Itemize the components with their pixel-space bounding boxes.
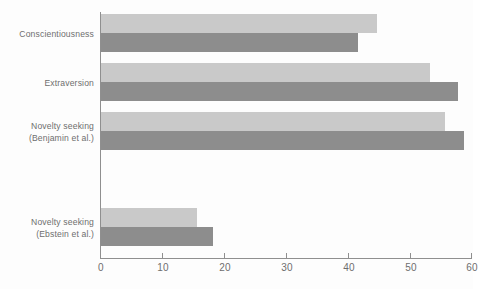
- bar-conscientiousness-light: [101, 14, 377, 33]
- x-tick-50: [410, 253, 411, 258]
- x-tick-label-50: 50: [396, 262, 426, 273]
- bar-extraversion-dark: [101, 82, 458, 101]
- x-tick-label-40: 40: [334, 262, 364, 273]
- plot-area: [101, 12, 473, 258]
- category-label-novelty-ebstein: Novelty seeking (Ebstein et al.): [0, 217, 94, 240]
- category-label-novelty-benjamin: Novelty seeking (Benjamin et al.): [0, 121, 94, 144]
- category-label-line1: Novelty seeking: [0, 121, 94, 133]
- x-tick-label-10: 10: [148, 262, 178, 273]
- category-label-line1: Conscientiousness: [0, 29, 94, 41]
- x-tick-label-30: 30: [272, 262, 302, 273]
- category-labels: Conscientiousness Extraversion Novelty s…: [0, 0, 94, 289]
- x-tick-label-20: 20: [210, 262, 240, 273]
- bar-extraversion-light: [101, 63, 430, 82]
- x-tick-10: [162, 253, 163, 258]
- bar-novelty-ebstein-light: [101, 208, 197, 227]
- category-label-extraversion: Extraversion: [0, 78, 94, 90]
- category-label-line2: (Benjamin et al.): [0, 133, 94, 145]
- x-tick-label-60: 60: [457, 262, 482, 273]
- bar-novelty-benjamin-light: [101, 112, 445, 131]
- bar-novelty-ebstein-dark: [101, 227, 213, 246]
- category-label-line1: Extraversion: [0, 78, 94, 90]
- bar-novelty-benjamin-dark: [101, 131, 464, 150]
- x-axis-line: [100, 258, 472, 259]
- x-tick-20: [224, 253, 225, 258]
- x-tick-40: [348, 253, 349, 258]
- bar-conscientiousness-dark: [101, 33, 358, 52]
- category-label-line1: Novelty seeking: [0, 217, 94, 229]
- category-label-line2: (Ebstein et al.): [0, 229, 94, 241]
- x-tick-30: [286, 253, 287, 258]
- x-tick-0: [100, 253, 101, 258]
- category-label-conscientiousness: Conscientiousness: [0, 29, 94, 41]
- x-tick-60: [471, 253, 472, 258]
- x-tick-label-0: 0: [86, 262, 116, 273]
